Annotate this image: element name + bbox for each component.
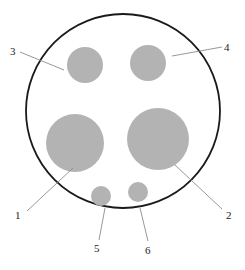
leader-line-5 <box>99 208 105 240</box>
cross-section-diagram <box>0 0 245 270</box>
callout-label-4: 4 <box>224 42 230 53</box>
region-group <box>46 45 189 206</box>
leader-line-3 <box>20 52 64 70</box>
region-2-large-right[interactable] <box>127 108 189 170</box>
region-5-small-left[interactable] <box>91 186 111 206</box>
outer-circle <box>26 14 220 208</box>
callout-label-6: 6 <box>145 245 151 256</box>
callout-label-1: 1 <box>15 210 21 221</box>
region-6-small-right[interactable] <box>128 182 148 202</box>
callout-label-5: 5 <box>94 243 100 254</box>
figure-canvas: 1 2 3 4 5 6 <box>0 0 245 270</box>
region-4-upper-right[interactable] <box>130 45 166 81</box>
callout-label-3: 3 <box>10 46 16 57</box>
callout-label-2: 2 <box>226 210 232 221</box>
region-3-upper-left[interactable] <box>67 47 103 83</box>
region-1-large-left[interactable] <box>46 114 104 172</box>
leader-line-6 <box>140 208 148 241</box>
